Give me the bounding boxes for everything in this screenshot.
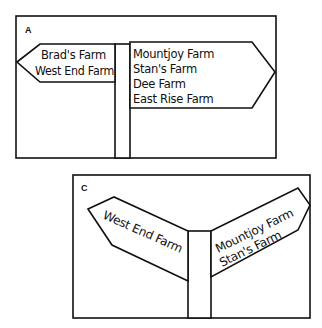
panel-a-right-sign-line-1: Mountjoy Farm — [133, 47, 214, 61]
panel-c-post — [188, 231, 211, 318]
panel-a-right-sign-line-4: East Rise Farm — [133, 92, 214, 106]
panel-c-label: C — [81, 183, 88, 193]
panel-a-right-sign-line-2: Stan's Farm — [133, 62, 197, 76]
panel-a-post — [115, 44, 130, 158]
panel-c: C West End Farm Mountjoy Farm Stan's Far… — [73, 175, 310, 318]
panel-a-left-sign-line-2: West End Farm — [35, 64, 114, 78]
panel-a-right-sign-line-3: Dee Farm — [133, 77, 186, 91]
panel-a: A Brad's Farm West End Farm Mountjoy Far… — [16, 16, 276, 158]
panel-a-left-sign-line-1: Brad's Farm — [41, 48, 106, 62]
panel-a-label: A — [25, 25, 32, 35]
signpost-diagram: A Brad's Farm West End Farm Mountjoy Far… — [0, 0, 322, 328]
